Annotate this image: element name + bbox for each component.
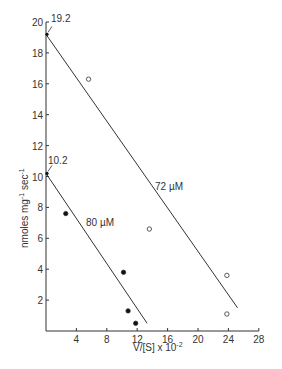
data-point	[225, 312, 229, 316]
intercept-label-80: 10.2	[48, 155, 68, 166]
intercept-marker	[45, 33, 48, 36]
intercept-label-72: 19.2	[51, 13, 71, 24]
data-point	[121, 270, 125, 274]
data-point	[133, 321, 137, 325]
x-tick-label: 28	[253, 334, 265, 345]
y-tick-label: 20	[32, 17, 44, 28]
y-tick-label: 4	[37, 264, 43, 275]
data-point	[147, 227, 151, 231]
y-tick-label: 2	[37, 295, 43, 306]
scatchard-plot: 4812162024282468101214161820 19.2 10.2 7…	[0, 0, 282, 369]
x-tick-label: 8	[104, 334, 110, 345]
series-label-80: 80 µM	[86, 217, 114, 228]
y-tick-label: 8	[37, 202, 43, 213]
y-tick-label: 6	[37, 233, 43, 244]
y-tick-label: 18	[32, 48, 44, 59]
series-label-72: 72 µM	[155, 181, 183, 192]
x-axis-label: V/[S] x 10-2	[133, 341, 183, 353]
axes	[46, 22, 259, 331]
x-tick-label: 4	[74, 334, 80, 345]
data-point	[64, 211, 68, 215]
intercept-marker	[45, 172, 48, 175]
fit-lines	[46, 34, 238, 323]
intercept-arrow	[48, 165, 52, 171]
data-points	[45, 26, 229, 325]
x-tick-label: 24	[223, 334, 235, 345]
data-point	[86, 77, 90, 81]
x-tick-label: 20	[192, 334, 204, 345]
data-point	[225, 273, 229, 277]
y-tick-label: 14	[32, 110, 44, 121]
intercept-arrow	[48, 26, 52, 32]
y-tick-label: 12	[32, 141, 44, 152]
y-tick-label: 10	[32, 172, 44, 183]
fit-line	[46, 34, 238, 307]
fit-line	[46, 173, 147, 323]
data-point	[126, 309, 130, 313]
y-tick-label: 16	[32, 79, 44, 90]
y-axis-label: nmoles mg-1 sec-1	[18, 168, 30, 248]
